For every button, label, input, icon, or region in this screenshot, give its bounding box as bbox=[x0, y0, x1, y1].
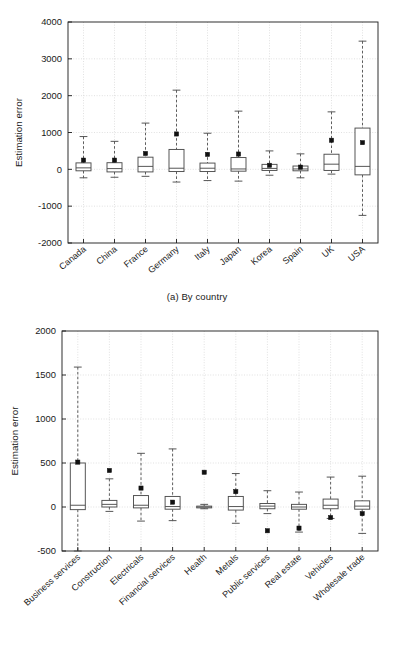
x-axis-category-label: USA bbox=[346, 244, 367, 264]
y-axis-tick-label: -1000 bbox=[38, 200, 62, 211]
boxplot-group bbox=[262, 151, 277, 175]
boxplot-group bbox=[231, 111, 246, 181]
x-axis-category-label: Business services bbox=[22, 552, 83, 608]
panel-by-country: -2000-100001000200030004000Estimation er… bbox=[0, 0, 394, 320]
box-iqr bbox=[323, 499, 338, 509]
mean-marker bbox=[234, 490, 238, 494]
mean-marker bbox=[202, 470, 206, 474]
x-axis-category-label: Health bbox=[183, 552, 209, 577]
x-axis-category-label: China bbox=[94, 244, 118, 267]
panel-by-from-sector: -5000500100015002000Estimation errorBusi… bbox=[0, 320, 394, 653]
x-axis-category-label: Financial services bbox=[117, 552, 177, 608]
y-axis-tick-label: 3000 bbox=[41, 53, 62, 64]
y-axis-title: Estimation error bbox=[9, 406, 20, 476]
y-axis-tick-label: 2000 bbox=[41, 90, 62, 101]
mean-marker bbox=[236, 152, 240, 156]
x-axis-category-label: Metals bbox=[214, 552, 241, 578]
box-iqr bbox=[138, 157, 153, 172]
mean-marker bbox=[205, 152, 209, 156]
mean-marker bbox=[267, 163, 271, 167]
box-iqr bbox=[324, 154, 339, 170]
y-axis-tick-label: 0 bbox=[57, 164, 62, 175]
mean-marker bbox=[112, 158, 116, 162]
y-axis-tick-label: 2000 bbox=[35, 325, 56, 336]
mean-marker bbox=[297, 526, 301, 530]
mean-marker bbox=[107, 468, 111, 472]
mean-marker bbox=[143, 151, 147, 155]
boxplot-group bbox=[228, 474, 243, 524]
x-axis-category-label: UK bbox=[320, 244, 336, 260]
y-axis-tick-label: 0 bbox=[51, 501, 56, 512]
box-iqr bbox=[228, 496, 243, 510]
mean-marker bbox=[360, 141, 364, 145]
mean-marker bbox=[298, 165, 302, 169]
y-axis-tick-label: 1000 bbox=[41, 127, 62, 138]
mean-marker bbox=[76, 460, 80, 464]
mean-marker bbox=[265, 529, 269, 533]
boxplot-group bbox=[200, 133, 215, 180]
box-iqr bbox=[355, 128, 370, 175]
y-axis-tick-label: 1500 bbox=[35, 369, 56, 380]
box-iqr bbox=[76, 163, 91, 171]
y-axis-tick-label: 4000 bbox=[41, 16, 62, 27]
y-axis-tick-label: 500 bbox=[40, 457, 56, 468]
figure-root: -2000-100001000200030004000Estimation er… bbox=[0, 0, 394, 653]
y-axis-title: Estimation error bbox=[13, 97, 24, 167]
box-iqr bbox=[134, 496, 149, 508]
box-iqr bbox=[200, 163, 215, 171]
boxplot-by-country: -2000-100001000200030004000Estimation er… bbox=[0, 0, 394, 290]
y-axis-tick-label: -2000 bbox=[38, 237, 62, 248]
x-axis-category-label: France bbox=[122, 244, 150, 270]
caption-panel-a: (a) By country bbox=[0, 291, 394, 302]
mean-marker bbox=[81, 158, 85, 162]
boxplot-group bbox=[76, 137, 91, 178]
y-axis-tick-label: 1000 bbox=[35, 413, 56, 424]
mean-marker bbox=[360, 512, 364, 516]
boxplot-group bbox=[292, 492, 307, 532]
mean-marker bbox=[174, 132, 178, 136]
boxplot-by-from-sector: -5000500100015002000Estimation errorBusi… bbox=[0, 320, 394, 630]
mean-marker bbox=[139, 486, 143, 490]
mean-marker bbox=[329, 138, 333, 142]
box-iqr bbox=[70, 463, 85, 510]
x-axis-category-label: Japan bbox=[218, 244, 243, 267]
x-axis-category-label: Italy bbox=[193, 244, 212, 263]
x-axis-category-label: Korea bbox=[249, 244, 274, 267]
mean-marker bbox=[329, 515, 333, 519]
mean-marker bbox=[171, 500, 175, 504]
x-axis-category-label: Spain bbox=[281, 244, 305, 266]
box-iqr bbox=[102, 500, 117, 507]
box-iqr bbox=[355, 501, 370, 509]
boxplot-group bbox=[165, 449, 180, 521]
y-axis-tick-label: -500 bbox=[37, 545, 56, 556]
x-axis-category-label: Germany bbox=[146, 244, 181, 276]
boxplot-group bbox=[169, 90, 184, 182]
box-iqr bbox=[107, 163, 122, 172]
boxplot-group bbox=[107, 141, 122, 177]
